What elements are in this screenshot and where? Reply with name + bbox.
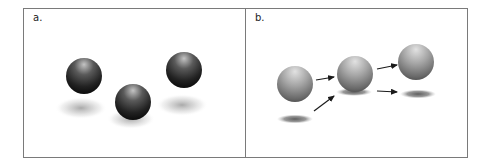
shadow-a1 — [55, 97, 107, 119]
panel-a-label: a. — [33, 13, 42, 23]
sphere-a3 — [166, 52, 202, 88]
sphere-b2 — [337, 56, 373, 92]
figure-canvas — [0, 0, 491, 163]
sphere-a2 — [115, 84, 151, 120]
sphere-b3 — [398, 44, 434, 80]
panel-b-label: b. — [255, 13, 265, 23]
shadow-a3 — [156, 94, 208, 116]
sphere-a1 — [66, 58, 102, 94]
sphere-b1 — [277, 66, 313, 102]
shadow-b1 — [277, 115, 313, 124]
panel-a-frame — [24, 9, 246, 158]
figure: a. b. — [0, 0, 491, 163]
shadow-b3 — [400, 90, 436, 99]
